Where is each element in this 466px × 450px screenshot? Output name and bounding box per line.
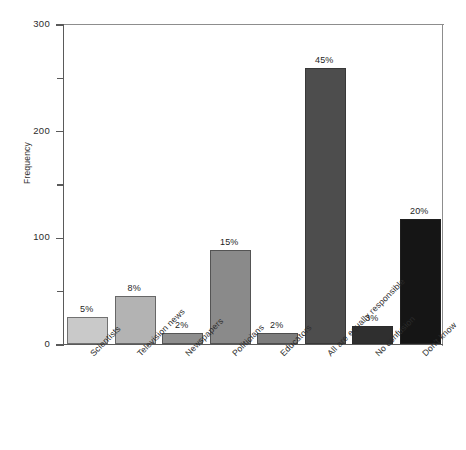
y-tick-label: 0	[0, 338, 50, 349]
y-tick-label: 300	[0, 18, 50, 29]
y-tick-label: 100	[0, 231, 50, 242]
y-tick-label: 200	[0, 125, 50, 136]
bar-value-label: 8%	[106, 283, 163, 293]
bar	[305, 68, 346, 344]
bar-value-label: 5%	[58, 304, 115, 314]
y-axis-title: Frequency	[22, 94, 38, 184]
bar-value-label: 45%	[296, 55, 353, 65]
bar-chart-figure: Frequency 0100200300 5%8%2%15%2%45%3%20%…	[0, 0, 466, 450]
bar-value-label: 20%	[391, 206, 448, 216]
bar-value-label: 15%	[201, 237, 258, 247]
